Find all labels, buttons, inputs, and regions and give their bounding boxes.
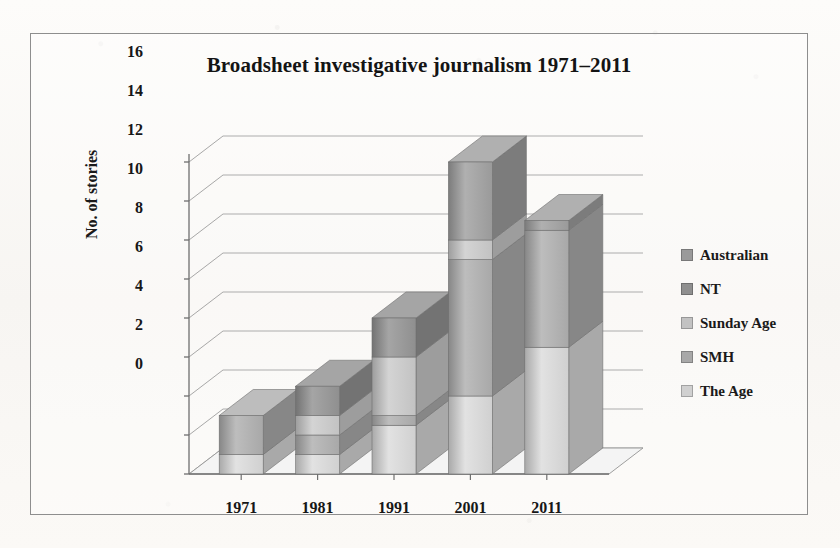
x-axis-tick-label: 1981: [283, 499, 353, 517]
y-axis-tick-label: 12: [109, 122, 143, 138]
legend-item[interactable]: The Age: [681, 382, 831, 400]
chart-canvas: [171, 144, 621, 489]
bar-column: [525, 195, 603, 475]
plot-area: 19711981199120012011: [171, 144, 621, 489]
bar-column: [296, 360, 374, 474]
x-axis-tick-label: 2001: [435, 499, 505, 517]
legend-swatch-icon: [681, 317, 693, 329]
y-axis-tick-label: 4: [109, 278, 143, 294]
y-axis-tick-labels: 0246810121416: [97, 34, 143, 379]
bar-column: [372, 292, 450, 474]
y-axis-tick-label: 14: [109, 83, 143, 99]
chart-legend: AustralianNTSunday AgeSMHThe Age: [681, 246, 831, 416]
legend-item-label: SMH: [700, 349, 734, 366]
x-axis-tick-label: 2011: [512, 499, 582, 517]
legend-item-label: The Age: [700, 383, 753, 400]
y-axis-tick-label: 2: [109, 317, 143, 333]
legend-swatch-icon: [681, 385, 693, 397]
chart-frame: Broadsheet investigative journalism 1971…: [30, 33, 808, 515]
y-axis-tick-label: 0: [109, 356, 143, 372]
legend-item-label: NT: [700, 281, 721, 298]
legend-swatch-icon: [681, 249, 693, 261]
legend-item-label: Australian: [700, 247, 768, 264]
y-axis-tick-label: 8: [109, 200, 143, 216]
legend-item[interactable]: NT: [681, 280, 831, 298]
legend-item[interactable]: SMH: [681, 348, 831, 366]
legend-item-label: Sunday Age: [700, 315, 776, 332]
y-axis-tick-label: 10: [109, 161, 143, 177]
legend-swatch-icon: [681, 351, 693, 363]
legend-item[interactable]: Sunday Age: [681, 314, 831, 332]
legend-item[interactable]: Australian: [681, 246, 831, 264]
chart-title: Broadsheet investigative journalism 1971…: [31, 53, 807, 78]
legend-swatch-icon: [681, 283, 693, 295]
x-axis-tick-label: 1991: [359, 499, 429, 517]
x-axis-tick-label: 1971: [206, 499, 276, 517]
y-axis-tick-label: 6: [109, 239, 143, 255]
y-axis-tick-label: 16: [109, 44, 143, 60]
bar-column: [448, 136, 526, 474]
